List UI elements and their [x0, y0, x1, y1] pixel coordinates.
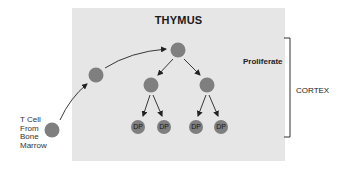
dp-label-2: DP — [157, 123, 171, 132]
arrow-to-proliferating-cell — [105, 49, 166, 68]
cortex-bracket — [284, 38, 290, 137]
dp-label-4: DP — [214, 123, 228, 132]
dp-label-3: DP — [189, 123, 203, 132]
arrow-split-right — [184, 59, 200, 75]
arrow-split-left — [158, 59, 173, 75]
arrow-dp1 — [143, 95, 150, 116]
arrow-dp4 — [209, 95, 218, 116]
arrow-to-thymus — [60, 84, 87, 120]
arrow-dp3 — [198, 95, 206, 116]
cell-lineage-graphic — [0, 0, 347, 172]
entering-cell — [89, 68, 104, 83]
proliferating-cell — [171, 43, 186, 58]
arrow-dp2 — [153, 95, 162, 116]
daughter-cell-left — [144, 78, 159, 93]
daughter-cell-right — [200, 78, 215, 93]
bone-marrow-t-cell — [45, 123, 60, 138]
dp-label-1: DP — [131, 123, 145, 132]
